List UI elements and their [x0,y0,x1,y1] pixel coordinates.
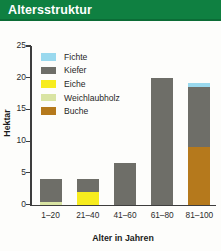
legend-item-label: Buche [64,106,88,116]
chart-panel: Altersstruktur 0510152025 Hektar Alter i… [0,0,221,251]
legend-item[interactable]: Eiche [41,77,161,91]
bar-segment-kiefer[interactable] [114,163,136,204]
bar-segment-weichlaubholz[interactable] [40,202,62,205]
bar-stack[interactable] [188,83,210,205]
bar-stack[interactable] [40,179,62,204]
bar-stack[interactable] [77,179,99,204]
bar-segment-kiefer[interactable] [77,179,99,192]
legend-item[interactable]: Weichlaubholz [41,91,161,105]
y-axis-tick-label: 25 [2,41,26,50]
y-axis-title: Hektar [2,95,12,151]
chart-legend: FichteKieferEicheWeichlaubholzBuche [41,50,161,118]
legend-item-label: Fichte [64,52,87,62]
y-axis-tick [26,45,31,46]
y-axis-tick [26,109,31,110]
legend-item[interactable]: Buche [41,104,161,118]
legend-swatch-icon [41,107,56,115]
bar-segment-kiefer[interactable] [188,87,210,147]
x-axis-title: Alter in Jahren [30,233,216,243]
legend-item-label: Eiche [64,79,86,89]
y-axis-tick [26,204,31,205]
bar-segment-eiche[interactable] [77,192,99,205]
bar-segment-kiefer[interactable] [40,179,62,202]
bar-segment-buche[interactable] [188,147,210,204]
legend-swatch-icon [41,80,56,88]
y-axis-tick-label: 0 [2,200,26,209]
y-axis-tick-label: 20 [2,73,26,82]
y-axis-tick [26,77,31,78]
legend-item-label: Kiefer [64,65,86,75]
legend-swatch-icon [41,67,56,75]
legend-item[interactable]: Fichte [41,50,161,64]
legend-item[interactable]: Kiefer [41,64,161,78]
legend-swatch-icon [41,53,56,61]
legend-item-label: Weichlaubholz [64,93,120,103]
y-axis-tick [26,141,31,142]
bar-stack[interactable] [114,163,136,204]
y-axis-tick-label: 5 [2,168,26,177]
legend-swatch-icon [41,94,56,102]
x-axis-line [30,205,216,207]
title-banner: Altersstruktur [0,0,221,21]
x-axis-tick-label: 81–100 [177,210,221,220]
y-axis-tick [26,172,31,173]
